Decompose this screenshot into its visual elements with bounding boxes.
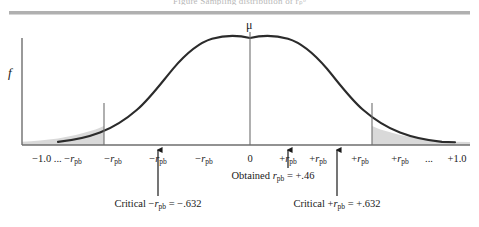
x-tick-label: −rpb — [195, 154, 213, 165]
x-tick-label: −rpb — [104, 154, 122, 165]
x-tick-label: +rpb — [279, 154, 297, 165]
x-tick-label: −rpb — [149, 154, 167, 165]
obtained-value-caption: Obtained rpb = +.46 — [232, 171, 315, 182]
sampling-distribution-figure: Figure Sampling distribution of rₚᵇ f μ … — [0, 0, 479, 227]
x-tick-label: +rpb — [309, 154, 327, 165]
normal-curve — [58, 36, 455, 142]
x-tick-label: +rpb — [391, 154, 409, 165]
distribution-plot — [0, 0, 479, 227]
critical-lower-caption: Critical −rpb = −.632 — [114, 199, 201, 210]
y-axis-label: f — [8, 65, 12, 81]
x-tick-label: −1.0 ... −rpb — [32, 154, 82, 165]
x-tick-label: +rpb — [351, 154, 369, 165]
critical-upper-caption: Critical +rpb = +.632 — [293, 199, 380, 210]
x-tick-label: +1.0 — [447, 154, 466, 165]
x-tick-label: ... — [425, 154, 433, 165]
x-tick-label: 0 — [247, 154, 252, 165]
mean-symbol-label: μ — [246, 18, 252, 33]
